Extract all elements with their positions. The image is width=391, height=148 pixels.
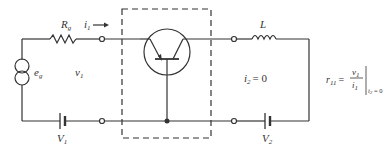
circuit-diagram: Rg i1 eg v1 V1 L i2= 0 V2 r11= v1 i1 i2 … bbox=[0, 0, 391, 148]
label-i1: i1 bbox=[84, 18, 91, 32]
label-i2-eq: i2= 0 bbox=[244, 72, 268, 86]
current-arrow-icon bbox=[104, 23, 109, 28]
inductor-icon bbox=[252, 36, 276, 40]
label-rg: Rg bbox=[60, 18, 72, 32]
resistor-rg bbox=[50, 35, 76, 43]
svg-text:v1: v1 bbox=[352, 67, 360, 79]
label-V1: V1 bbox=[57, 132, 67, 146]
svg-text:i2 = 0: i2 = 0 bbox=[368, 87, 382, 95]
junction-dot bbox=[165, 119, 170, 124]
svg-text:i1: i1 bbox=[352, 80, 358, 92]
formula-r11: r11= v1 i1 i2 = 0 bbox=[326, 66, 382, 95]
output-terminal-bottom bbox=[232, 119, 237, 124]
label-v1: v1 bbox=[75, 66, 83, 80]
input-terminal-top bbox=[100, 37, 105, 42]
svg-text:r11=: r11= bbox=[326, 74, 344, 87]
label-V2: V2 bbox=[262, 132, 273, 146]
label-eg: eg bbox=[34, 66, 43, 80]
label-L: L bbox=[259, 18, 266, 30]
transistor-icon bbox=[140, 29, 232, 124]
output-terminal-top bbox=[232, 37, 237, 42]
input-terminal-bottom bbox=[100, 119, 105, 124]
